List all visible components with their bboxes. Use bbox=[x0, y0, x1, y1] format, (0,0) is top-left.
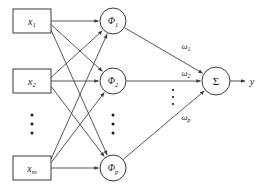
hidden-layer: Φ1Φ2Φp bbox=[100, 8, 126, 181]
weight-labels: ω1ω2ωp bbox=[182, 41, 191, 123]
edge-x2-to-phip bbox=[51, 86, 104, 156]
edge-phi1-to-sigma bbox=[125, 28, 203, 73]
edge-phip-to-sigma bbox=[123, 91, 204, 159]
rbf-network-diagram: x1x2xm Φ1Φ2Φp Σy ω1ω2ωp bbox=[0, 0, 263, 191]
edges-input-to-hidden bbox=[51, 21, 107, 168]
hidden-ellipsis bbox=[112, 114, 115, 135]
hidden-ellipsis-dot bbox=[112, 132, 115, 135]
hidden-ellipsis-dot bbox=[112, 123, 115, 126]
input-node-x2: x2 bbox=[13, 69, 51, 93]
summation-node-group: Σy bbox=[202, 67, 255, 95]
weights-ellipsis bbox=[172, 89, 174, 105]
weight-label-wp: ωp bbox=[182, 112, 191, 123]
weights-ellipsis-dot bbox=[172, 89, 174, 91]
summation-symbol: Σ bbox=[213, 75, 219, 87]
diagram-canvas: x1x2xm Φ1Φ2Φp Σy ω1ω2ωp bbox=[0, 0, 263, 191]
weight-label-w2: ω2 bbox=[182, 68, 191, 79]
input-ellipsis-dot bbox=[31, 123, 34, 126]
edge-x2-to-phi1 bbox=[51, 31, 102, 78]
weights-ellipsis-dot bbox=[172, 103, 174, 105]
hidden-node-phi1: Φ1 bbox=[100, 8, 126, 34]
weight-label-w1: ω1 bbox=[182, 41, 191, 52]
input-ellipsis-dot bbox=[31, 132, 34, 135]
edge-x1-to-phip bbox=[51, 30, 107, 155]
edge-xm-to-phi2 bbox=[51, 93, 104, 163]
hidden-node-phi2: Φ2 bbox=[100, 68, 126, 94]
edges-hidden-to-output bbox=[123, 28, 204, 159]
input-ellipsis-dot bbox=[31, 114, 34, 117]
hidden-ellipsis-dot bbox=[112, 114, 115, 117]
input-node-x1: x1 bbox=[13, 9, 51, 33]
weights-ellipsis-dot bbox=[172, 96, 174, 98]
hidden-node-phip: Φp bbox=[100, 155, 126, 181]
output-label-y: y bbox=[249, 76, 255, 87]
input-node-xm: xm bbox=[13, 156, 51, 180]
input-ellipsis bbox=[31, 114, 34, 135]
input-layer: x1x2xm bbox=[13, 9, 51, 180]
